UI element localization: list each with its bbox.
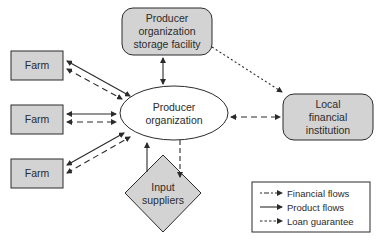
legend-label-financial: Financial flows [287,188,350,199]
farm-node-3: Farm [11,159,63,188]
legend-label-product: Product flows [287,202,344,213]
local-financial-institution-node: Local financial institution [283,94,373,140]
farm-node-2: Farm [11,105,63,134]
flow-diagram: Producer organization storage facility L… [0,0,380,241]
farm-node-1: Farm [11,51,63,80]
lfi-label-line1: Local [315,98,340,110]
producer-organization-node: Producer organization [120,86,228,140]
farm-label: Farm [25,113,50,125]
storage-label-line3: storage facility [133,38,201,50]
farm-label: Farm [25,167,50,179]
input-suppliers-node: Input suppliers [125,155,201,232]
lfi-label-line3: institution [306,124,351,136]
storage-label-line2: organization [138,25,195,37]
legend: Financial flows Product flows Loan guara… [252,182,370,232]
farm-label: Farm [25,59,50,71]
product-flow-arrow [67,61,130,96]
input-suppliers-line1: Input [151,181,174,193]
loan-guarantee-arrow [212,47,282,92]
po-label-line2: organization [145,114,202,126]
po-label-line1: Producer [153,101,196,113]
financial-flow-arrow [67,137,130,173]
lfi-label-line2: financial [309,111,348,123]
storage-label-line1: Producer [146,12,189,24]
product-flow-arrow [67,133,124,165]
financial-flow-arrow [67,69,122,99]
storage-facility-node: Producer organization storage facility [122,8,212,55]
legend-label-loan: Loan guarantee [287,216,354,227]
input-suppliers-line2: suppliers [142,194,184,206]
